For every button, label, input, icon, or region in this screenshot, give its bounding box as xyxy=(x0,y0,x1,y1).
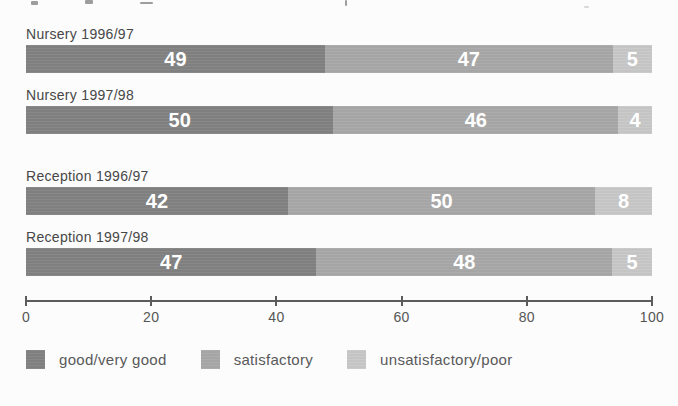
legend-item-satisfactory: satisfactory xyxy=(201,350,313,369)
x-axis: 020406080100 xyxy=(26,293,652,333)
bar-value-label: 48 xyxy=(453,252,475,272)
bar-value-label: 5 xyxy=(627,252,638,272)
bar-segment-satisfactory: 48 xyxy=(316,248,612,276)
bar-segment-good: 47 xyxy=(26,248,316,276)
bar-row: Reception 1997/9847485 xyxy=(26,229,652,276)
x-axis-tick xyxy=(25,296,27,306)
bar-value-label: 50 xyxy=(430,191,452,211)
x-axis-tick xyxy=(651,296,653,306)
x-axis-tick xyxy=(526,296,528,306)
stacked-bar-chart: Nursery 1996/9749475Nursery 1997/9850464… xyxy=(0,0,678,406)
bar-segment-good: 42 xyxy=(26,187,288,215)
legend-label: unsatisfactory/poor xyxy=(380,351,512,368)
bar-value-label: 49 xyxy=(164,49,186,69)
bar-value-label: 47 xyxy=(160,252,182,272)
stacked-bar: 50464 xyxy=(26,106,652,134)
bar-segment-good: 50 xyxy=(26,106,333,134)
bar-segment-unsatisfactory: 5 xyxy=(612,248,652,276)
bar-value-label: 4 xyxy=(629,110,640,130)
legend-swatch-good xyxy=(26,350,45,369)
legend: good/very goodsatisfactoryunsatisfactory… xyxy=(26,350,652,369)
bar-value-label: 50 xyxy=(169,110,191,130)
bar-segment-unsatisfactory: 8 xyxy=(595,187,652,215)
scanned-chart-page: Nursery 1996/9749475Nursery 1997/9850464… xyxy=(0,0,678,406)
x-axis-tick-label: 60 xyxy=(394,309,410,325)
legend-item-unsatisfactory: unsatisfactory/poor xyxy=(347,350,512,369)
bar-value-label: 47 xyxy=(458,49,480,69)
bar-value-label: 42 xyxy=(146,191,168,211)
x-axis-tick-label: 20 xyxy=(143,309,159,325)
stacked-bar: 49475 xyxy=(26,45,652,73)
bar-value-label: 46 xyxy=(465,110,487,130)
bar-row-label: Nursery 1996/97 xyxy=(26,26,652,42)
bar-row-label: Reception 1996/97 xyxy=(26,168,652,184)
x-axis-tick xyxy=(401,296,403,306)
bar-segment-good: 49 xyxy=(26,45,325,73)
stacked-bar: 47485 xyxy=(26,248,652,276)
x-axis-tick-label: 40 xyxy=(268,309,284,325)
bar-row-label: Nursery 1997/98 xyxy=(26,87,652,103)
legend-item-good: good/very good xyxy=(26,350,167,369)
bar-row-label: Reception 1997/98 xyxy=(26,229,652,245)
legend-swatch-satisfactory xyxy=(201,350,220,369)
bar-segment-unsatisfactory: 5 xyxy=(613,45,652,73)
x-axis-tick xyxy=(275,296,277,306)
legend-label: satisfactory xyxy=(234,351,313,368)
bar-value-label: 5 xyxy=(627,49,638,69)
bar-row: Nursery 1997/9850464 xyxy=(26,87,652,134)
stacked-bar: 42508 xyxy=(26,187,652,215)
bar-segment-satisfactory: 50 xyxy=(288,187,595,215)
bar-row: Reception 1996/9742508 xyxy=(26,168,652,215)
x-axis-tick-label: 0 xyxy=(22,309,30,325)
legend-swatch-unsatisfactory xyxy=(347,350,366,369)
bar-rows: Nursery 1996/9749475Nursery 1997/9850464… xyxy=(26,26,652,276)
x-axis-line xyxy=(26,300,652,302)
x-axis-tick-label: 100 xyxy=(640,309,664,325)
bar-row: Nursery 1996/9749475 xyxy=(26,26,652,73)
x-axis-tick xyxy=(150,296,152,306)
bar-segment-satisfactory: 47 xyxy=(325,45,613,73)
bar-value-label: 8 xyxy=(618,191,629,211)
legend-label: good/very good xyxy=(59,351,167,368)
bar-segment-satisfactory: 46 xyxy=(333,106,618,134)
bar-segment-unsatisfactory: 4 xyxy=(618,106,652,134)
x-axis-tick-label: 80 xyxy=(519,309,535,325)
